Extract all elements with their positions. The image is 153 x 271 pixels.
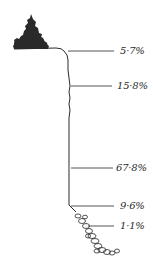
label-cliff-foot: 9·6%	[120, 201, 145, 211]
cliff-outline	[14, 48, 76, 212]
label-main-face: 67·8%	[116, 163, 147, 173]
tree-cluster-icon	[13, 14, 49, 49]
talus-boulders	[75, 214, 120, 255]
label-talus: 1·1%	[120, 221, 145, 231]
label-upper-face: 15·8%	[117, 81, 148, 91]
leader-lines	[68, 51, 114, 226]
label-cliff-top: 5·7%	[120, 46, 145, 56]
